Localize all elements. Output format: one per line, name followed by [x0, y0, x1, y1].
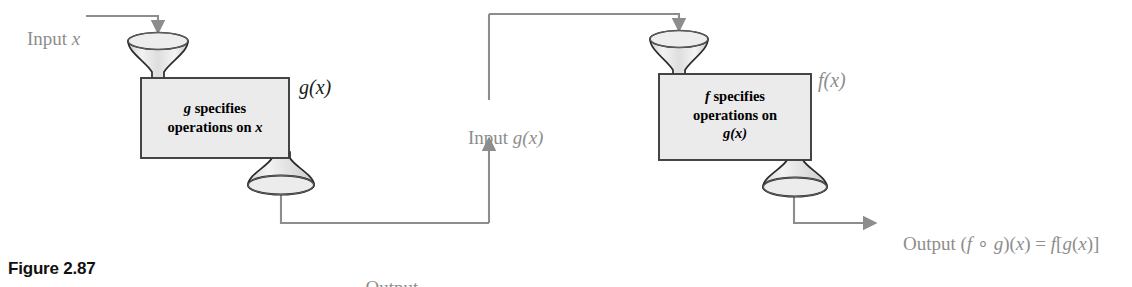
label-output-comp-g2: g: [1062, 233, 1072, 254]
label-output-comp-eq: ) =: [1024, 233, 1051, 254]
label-input-gx-var: g(x): [513, 127, 544, 148]
label-output-comp-x1: x: [1016, 233, 1024, 254]
box-g-line1-italic: g: [184, 100, 191, 116]
box-g-text: g specifies operations on x: [141, 99, 289, 136]
label-input-x-var: x: [72, 28, 80, 49]
label-input-gx-word: Input: [468, 127, 513, 148]
box-f-line3-italic: g(x): [723, 125, 747, 141]
box-g-line1-rest: specifies: [191, 100, 246, 116]
label-input-x-word: Input: [27, 28, 72, 49]
label-input-x: Input x: [8, 6, 80, 73]
box-f-text: f specifies operations on g(x): [659, 87, 811, 143]
box-f-line1: f specifies: [659, 87, 811, 106]
box-g-line2-rest: operations on: [167, 119, 255, 135]
label-side-gx: g(x): [299, 76, 331, 100]
funnel-input-g: [128, 33, 188, 81]
box-g-line2-italic: x: [255, 119, 262, 135]
box-g-line1: g specifies: [141, 99, 289, 118]
label-output-comp-paren: )(: [1003, 233, 1016, 254]
flow-output-gx-line: [281, 190, 489, 223]
figure-caption: Figure 2.87: [8, 259, 96, 279]
label-output-gx: Output g(x): [347, 232, 437, 287]
label-output-comp-x2: x: [1078, 233, 1086, 254]
figure-composition-diagram: g specifies operations on x f specifies …: [0, 0, 1132, 287]
label-output-gx-line1: Output: [347, 277, 437, 287]
box-f-line2: operations on: [659, 106, 811, 125]
flow-input-gx-rail: [489, 14, 679, 31]
label-side-fx: f(x): [818, 69, 846, 93]
box-g-line2: operations on x: [141, 118, 289, 137]
flow-input-x-line: [86, 16, 158, 33]
box-f-line1-rest: specifies: [710, 88, 765, 104]
label-output-composition: Output (f ∘ g)(x) = f[g(x)]: [884, 211, 1099, 278]
label-output-comp-word: Output (: [903, 233, 967, 254]
box-f: f specifies operations on g(x): [659, 74, 811, 160]
box-f-line3: g(x): [659, 124, 811, 143]
label-input-gx: Input g(x): [449, 105, 543, 172]
box-g: g specifies operations on x: [141, 78, 289, 158]
label-output-comp-br3: )]: [1087, 233, 1100, 254]
label-output-comp-g: g: [994, 233, 1004, 254]
label-output-comp-ring: ∘: [972, 233, 994, 254]
funnel-input-f: [650, 31, 708, 78]
